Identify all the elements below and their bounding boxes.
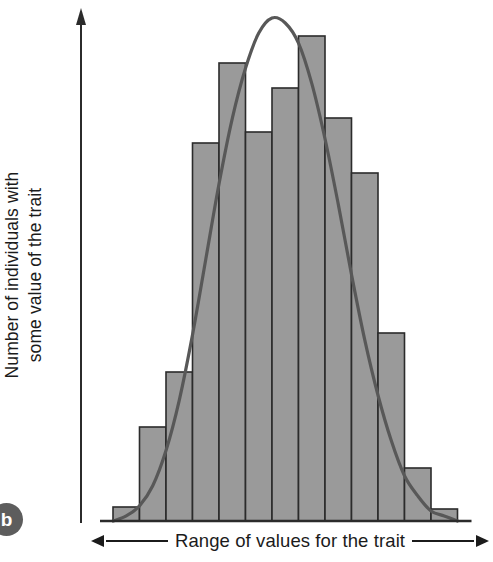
y-axis: [72, 8, 92, 523]
y-axis-title-line-2: some value of the trait: [24, 88, 47, 463]
histogram-bar: [140, 427, 167, 521]
histogram-bars: [113, 36, 458, 521]
y-axis-line: [80, 22, 82, 523]
plot-area: [92, 8, 482, 523]
figure-panel-b: b Number of individuals with some value …: [0, 0, 493, 562]
histogram-bar: [246, 132, 273, 521]
histogram-bar: [378, 333, 405, 521]
histogram-bar: [219, 63, 246, 521]
y-axis-title-line-1: Number of individuals with: [1, 88, 24, 463]
panel-label-badge: b: [0, 503, 23, 536]
x-axis-label-row: Range of values for the trait: [94, 526, 486, 556]
histogram-bar: [325, 118, 352, 521]
x-axis-title: Range of values for the trait: [168, 530, 412, 552]
histogram-bar: [299, 36, 326, 521]
left-arrow-icon: [91, 534, 168, 548]
y-axis-title: Number of individuals with some value of…: [1, 88, 63, 463]
histogram-bar: [272, 88, 299, 521]
histogram-svg: [92, 8, 482, 523]
right-arrow-icon: [412, 534, 489, 548]
